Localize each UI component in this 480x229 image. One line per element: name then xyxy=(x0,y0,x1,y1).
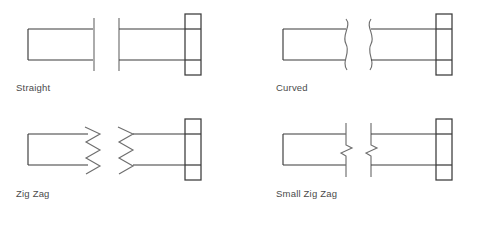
break-line-right-curved xyxy=(369,19,372,70)
break-style-cell-zig-zag: Zig Zag xyxy=(0,114,240,229)
bolt-head-small-zig-zag xyxy=(436,119,452,180)
bolt-head-curved xyxy=(436,14,452,75)
break-line-right-zig-zag xyxy=(118,127,133,174)
break-line-right-small-zig-zag xyxy=(366,123,377,177)
right-shank-small-zig-zag xyxy=(371,134,436,165)
bolt-head-zig-zag xyxy=(185,119,201,180)
break-style-cell-small-zig-zag: Small Zig Zag xyxy=(240,114,480,229)
right-shank-straight xyxy=(119,29,185,60)
bolt-head-straight xyxy=(185,14,201,75)
break-line-left-small-zig-zag xyxy=(341,123,352,177)
cell-label-curved: Curved xyxy=(276,82,308,93)
cell-label-small-zig-zag: Small Zig Zag xyxy=(276,188,337,199)
cell-label-straight: Straight xyxy=(16,82,50,93)
break-style-cell-curved: Curved xyxy=(240,0,480,114)
bolt-figure-curved xyxy=(240,0,480,86)
right-shank-zig-zag xyxy=(133,134,185,165)
bolt-figure-straight xyxy=(0,0,240,86)
right-shank-curved xyxy=(371,29,436,60)
left-shank-small-zig-zag xyxy=(283,134,346,165)
left-shank-curved xyxy=(283,29,346,60)
left-shank-zig-zag xyxy=(28,134,88,165)
cell-label-zig-zag: Zig Zag xyxy=(16,188,50,199)
left-shank-straight xyxy=(28,29,93,60)
break-line-styles-diagram: Straight xyxy=(0,0,480,229)
break-style-cell-straight: Straight xyxy=(0,0,240,114)
break-line-left-curved xyxy=(345,19,348,70)
